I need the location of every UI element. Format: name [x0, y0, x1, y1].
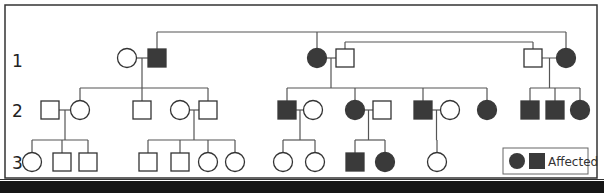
male-unaffected-iii-5: [171, 153, 189, 171]
male-unaffected-iii-3: [79, 153, 97, 171]
caption-band: [0, 181, 604, 193]
male-unaffected-i-4: [336, 49, 354, 67]
male-unaffected-i-5: [524, 49, 542, 67]
male-unaffected-iii-4: [139, 153, 157, 171]
female-affected-i-3: [308, 49, 327, 68]
female-unaffected-iii-8: [274, 153, 293, 172]
male-unaffected-ii-9: [373, 101, 391, 119]
male-affected-ii-14: [546, 101, 564, 119]
pedigree-figure: 1 2 3 Affected: [0, 0, 604, 193]
male-affected-ii-6: [278, 101, 296, 119]
female-unaffected-iii-12: [428, 153, 447, 172]
female-unaffected-iii-9: [306, 153, 325, 172]
male-unaffected-ii-3: [133, 101, 151, 119]
female-unaffected-ii-11: [441, 101, 460, 120]
legend-affected-square-icon: [529, 153, 545, 169]
male-affected-ii-13: [521, 101, 539, 119]
female-unaffected-iii-7: [226, 153, 245, 172]
male-affected-iii-10: [346, 153, 364, 171]
female-unaffected-ii-4: [171, 101, 190, 120]
generation-label-1: 1: [12, 51, 23, 71]
female-unaffected-ii-7: [304, 101, 323, 120]
female-affected-iii-11: [376, 153, 395, 172]
male-unaffected-ii-1: [41, 101, 59, 119]
male-affected-ii-10: [414, 101, 432, 119]
legend: Affected: [503, 148, 598, 174]
generation-label-2: 2: [12, 101, 23, 121]
male-unaffected-iii-2: [53, 153, 71, 171]
female-affected-ii-15: [571, 101, 590, 120]
female-unaffected-iii-6: [199, 153, 218, 172]
legend-affected-circle-icon: [509, 153, 525, 169]
generation-label-3: 3: [12, 153, 23, 173]
caption-divider: [0, 179, 604, 180]
female-unaffected-ii-2: [71, 101, 90, 120]
pedigree-chart: 1 2 3 Affected: [0, 0, 604, 180]
female-affected-ii-12: [478, 101, 497, 120]
legend-label: Affected: [548, 155, 598, 169]
female-unaffected-iii-1: [23, 153, 42, 172]
female-affected-i-6: [557, 49, 576, 68]
female-unaffected-i-1: [118, 49, 137, 68]
female-affected-ii-8: [346, 101, 365, 120]
male-affected-i-2: [148, 49, 166, 67]
male-unaffected-ii-5: [199, 101, 217, 119]
